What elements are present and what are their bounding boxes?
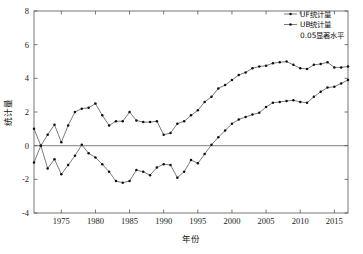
data-point	[238, 74, 241, 77]
data-point	[60, 173, 63, 176]
data-point	[285, 60, 288, 63]
data-point	[169, 132, 172, 135]
y-tick-label: 6	[25, 40, 29, 50]
data-point	[121, 120, 124, 123]
x-tick-label: 1980	[87, 216, 104, 226]
data-point	[74, 155, 77, 158]
data-point	[278, 101, 281, 104]
data-point	[272, 62, 275, 65]
x-tick-label: 1995	[189, 216, 206, 226]
legend-label-2: UB统计量	[300, 20, 332, 29]
data-point	[306, 68, 309, 71]
x-axis-title: 年份	[182, 234, 200, 244]
data-point	[217, 87, 220, 90]
series-line-1	[34, 62, 348, 146]
series-line-2	[34, 80, 348, 183]
data-point	[272, 101, 275, 104]
mann-kendall-chart: 197519801985199019952000200520102015 -4-…	[0, 0, 363, 254]
y-tick-label: 2	[25, 107, 29, 117]
data-point	[238, 118, 241, 121]
data-point	[347, 79, 350, 82]
data-point	[210, 96, 213, 99]
data-point	[197, 109, 200, 112]
data-point	[176, 123, 179, 126]
data-point	[135, 169, 138, 172]
legend-label-3: 0.05显著水平	[300, 31, 344, 40]
data-point	[101, 163, 104, 166]
data-point	[258, 112, 261, 115]
data-point	[292, 64, 295, 67]
data-point	[101, 114, 104, 117]
data-point	[46, 133, 49, 136]
y-tick-label: -2	[22, 174, 29, 184]
data-point	[313, 96, 316, 99]
data-point	[340, 82, 343, 85]
data-point	[81, 107, 84, 110]
data-point	[319, 91, 322, 94]
data-point	[60, 141, 63, 144]
data-point	[74, 111, 77, 114]
data-point	[40, 144, 43, 147]
data-point	[128, 111, 131, 114]
data-point	[265, 106, 268, 109]
data-point	[33, 161, 36, 164]
data-point	[162, 133, 165, 136]
plot-frame	[34, 11, 348, 213]
data-point	[285, 100, 288, 103]
data-point	[224, 84, 227, 87]
data-point	[224, 129, 227, 132]
plot-border	[34, 11, 348, 213]
data-point	[190, 159, 193, 162]
data-point	[299, 101, 302, 104]
chart-legend: UF统计量UB统计量0.05显著水平	[284, 10, 344, 40]
data-point	[251, 67, 254, 70]
data-point	[142, 171, 145, 174]
legend-label-1: UF统计量	[300, 10, 332, 19]
data-point	[108, 124, 111, 127]
data-point	[326, 61, 329, 64]
data-point	[149, 174, 152, 177]
data-point	[115, 180, 118, 183]
y-tick-label: 4	[25, 73, 30, 83]
x-tick-label: 2000	[223, 216, 240, 226]
data-point	[244, 116, 247, 119]
data-point	[347, 65, 350, 68]
data-point	[135, 119, 138, 122]
data-point	[176, 176, 179, 179]
data-point	[156, 166, 159, 169]
data-point	[333, 86, 336, 89]
data-point	[149, 121, 152, 124]
data-point	[217, 136, 220, 139]
x-tick-label: 1990	[155, 216, 172, 226]
data-point	[53, 123, 56, 126]
data-point	[190, 114, 193, 117]
data-point	[46, 167, 49, 170]
x-tick-label: 2015	[326, 216, 343, 226]
data-point	[156, 120, 159, 123]
data-point	[169, 164, 172, 167]
y-axis-title: 统计量	[3, 99, 13, 126]
legend-swatch-marker-1	[289, 13, 292, 16]
data-point	[210, 144, 213, 147]
data-point	[33, 128, 36, 131]
x-tick-label: 1975	[53, 216, 70, 226]
y-tick-label: 0	[25, 141, 29, 151]
data-point	[108, 171, 111, 174]
data-point	[299, 67, 302, 70]
y-tick-label: 8	[25, 6, 29, 16]
data-point	[87, 107, 90, 110]
data-point	[319, 63, 322, 66]
data-point	[115, 120, 118, 123]
data-point	[81, 144, 84, 147]
data-point	[258, 65, 261, 68]
data-point	[306, 101, 309, 104]
data-point	[94, 102, 97, 105]
data-point	[203, 101, 206, 104]
data-point	[231, 123, 234, 126]
data-point	[142, 121, 145, 124]
data-point	[67, 124, 70, 127]
data-point	[333, 66, 336, 69]
x-tick-label: 2005	[258, 216, 275, 226]
data-point	[326, 86, 329, 89]
data-point	[183, 120, 186, 123]
